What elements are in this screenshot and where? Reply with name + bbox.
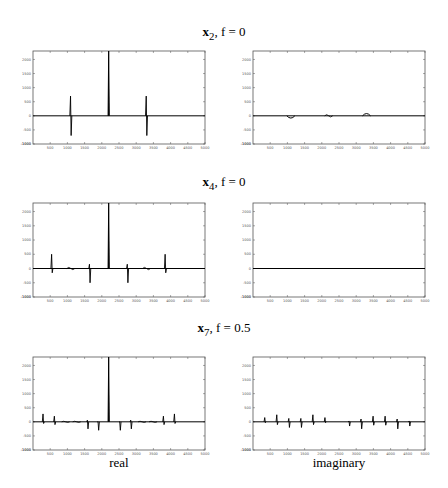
- y-tick-label: -500: [23, 434, 31, 438]
- y-tick-label: 2000: [22, 210, 31, 214]
- x-tick-label: 2500: [335, 146, 344, 150]
- title-rest: , f = 0: [214, 174, 245, 189]
- x-tick-label: 1000: [283, 299, 292, 303]
- y-tick-label: 1500: [242, 224, 251, 228]
- x-tick-label: 500: [267, 299, 274, 303]
- row-1-title: x2, f = 0: [0, 24, 448, 42]
- x-tick-label: 5000: [201, 146, 210, 150]
- x-tick-label: 3500: [149, 146, 158, 150]
- x-tick-label: 2000: [317, 299, 326, 303]
- y-tick-label: 0: [249, 267, 251, 271]
- plot-frame: [33, 51, 205, 144]
- y-tick-label: 0: [29, 114, 31, 118]
- x-tick-label: 500: [47, 146, 54, 150]
- x-tick-label: 4000: [166, 299, 175, 303]
- plot-frame: [253, 51, 425, 144]
- y-tick-label: 1000: [22, 86, 31, 90]
- x-tick-label: 4000: [166, 146, 175, 150]
- y-tick-label: 1500: [242, 378, 251, 382]
- svg-text:-1000: -1000: [241, 142, 251, 146]
- x-tick-label: 2000: [97, 299, 106, 303]
- x-tick-label: 1500: [300, 299, 309, 303]
- svg-text:-1000: -1000: [241, 295, 251, 299]
- plot-frame: [253, 203, 425, 297]
- x-tick-label: 5000: [421, 146, 430, 150]
- svg-text:-1000: -1000: [241, 448, 251, 452]
- plot-x4-imaginary: 500100015002000250030003500400045005000-…: [253, 203, 425, 297]
- x-tick-label: 4000: [386, 146, 395, 150]
- svg-text:-1000: -1000: [21, 142, 31, 146]
- y-tick-label: -500: [243, 434, 251, 438]
- y-tick-label: 2000: [22, 58, 31, 62]
- y-tick-label: 2000: [242, 58, 251, 62]
- x-tick-label: 1000: [63, 299, 72, 303]
- title-rest: , f = 0.5: [210, 320, 251, 335]
- plot-frame: [253, 357, 425, 450]
- y-tick-label: 500: [24, 100, 31, 104]
- x-tick-label: 4500: [403, 299, 412, 303]
- y-tick-label: -500: [23, 128, 31, 132]
- x-tick-label: 500: [47, 299, 54, 303]
- y-tick-label: 500: [244, 406, 251, 410]
- svg-text:-1000: -1000: [21, 295, 31, 299]
- y-tick-label: 1000: [22, 238, 31, 242]
- y-tick-label: 1000: [242, 392, 251, 396]
- y-tick-label: 2000: [242, 364, 251, 368]
- x-tick-label: 1000: [283, 146, 292, 150]
- x-tick-label: 4500: [403, 146, 412, 150]
- title-rest: , f = 0: [214, 24, 245, 39]
- y-tick-label: 0: [29, 267, 31, 271]
- x-tick-label: 1500: [80, 299, 89, 303]
- x-tick-label: 4000: [386, 299, 395, 303]
- x-tick-label: 4500: [183, 299, 192, 303]
- x-tick-label: 3000: [132, 299, 141, 303]
- y-tick-label: 0: [249, 114, 251, 118]
- y-tick-label: 500: [244, 100, 251, 104]
- x-tick-label: 1500: [80, 146, 89, 150]
- y-tick-label: 500: [24, 252, 31, 256]
- x-tick-label: 500: [267, 146, 274, 150]
- y-tick-label: 1500: [242, 72, 251, 76]
- x-tick-label: 1500: [300, 146, 309, 150]
- y-tick-label: 1000: [242, 86, 251, 90]
- x-tick-label: 2500: [115, 146, 124, 150]
- y-tick-label: 500: [244, 252, 251, 256]
- x-tick-label: 3500: [369, 299, 378, 303]
- plot-x7-imaginary: 500100015002000250030003500400045005000-…: [253, 357, 425, 450]
- x-tick-label: 5000: [421, 299, 430, 303]
- y-tick-label: 1500: [22, 378, 31, 382]
- plot-x4-real: 500100015002000250030003500400045005000-…: [33, 203, 205, 297]
- y-tick-label: 1000: [242, 238, 251, 242]
- real-column-label: real: [33, 455, 205, 471]
- plot-x2-real: 500100015002000250030003500400045005000-…: [33, 51, 205, 144]
- y-tick-label: 500: [24, 406, 31, 410]
- y-tick-label: 0: [29, 420, 31, 424]
- row-2-title: x4, f = 0: [0, 174, 448, 192]
- x-tick-label: 1000: [63, 146, 72, 150]
- y-tick-label: 1000: [22, 392, 31, 396]
- y-tick-label: -500: [23, 281, 31, 285]
- y-tick-label: 0: [249, 420, 251, 424]
- plot-x2-imaginary: 500100015002000250030003500400045005000-…: [253, 51, 425, 144]
- x-tick-label: 4500: [183, 146, 192, 150]
- y-tick-label: 2000: [22, 364, 31, 368]
- plot-frame: [33, 203, 205, 297]
- row-3-title: x7, f = 0.5: [0, 320, 448, 338]
- y-tick-label: 1500: [22, 224, 31, 228]
- x-tick-label: 3000: [132, 146, 141, 150]
- svg-text:-1000: -1000: [21, 448, 31, 452]
- x-tick-label: 2500: [335, 299, 344, 303]
- imaginary-column-label: imaginary: [253, 455, 425, 471]
- plot-x7-real: 500100015002000250030003500400045005000-…: [33, 357, 205, 450]
- y-tick-label: -500: [243, 281, 251, 285]
- y-tick-label: -500: [243, 128, 251, 132]
- x-tick-label: 2000: [317, 146, 326, 150]
- x-tick-label: 3000: [352, 146, 361, 150]
- x-tick-label: 5000: [201, 299, 210, 303]
- x-tick-label: 3500: [369, 146, 378, 150]
- x-tick-label: 2000: [97, 146, 106, 150]
- x-tick-label: 3500: [149, 299, 158, 303]
- x-tick-label: 3000: [352, 299, 361, 303]
- plot-frame: [33, 357, 205, 450]
- y-tick-label: 1500: [22, 72, 31, 76]
